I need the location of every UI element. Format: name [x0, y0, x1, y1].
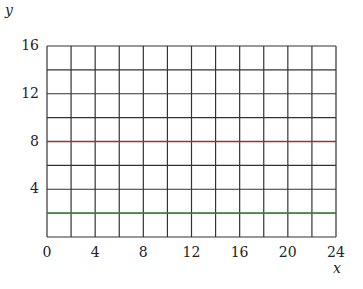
x-tick-label: 16	[231, 244, 249, 260]
x-tick-label: 20	[279, 244, 297, 260]
y-tick-label: 8	[30, 133, 39, 149]
x-tick-label: 8	[139, 244, 148, 260]
y-tick-label: 16	[21, 37, 39, 53]
y-tick-label: 4	[30, 180, 39, 196]
x-tick-label: 4	[91, 244, 100, 260]
x-axis-label: x	[333, 260, 341, 276]
x-tick-label: 12	[183, 244, 201, 260]
y-axis-label: y	[5, 2, 13, 18]
plot-area	[0, 0, 363, 289]
x-tick-label: 24	[327, 244, 345, 260]
x-tick-label: 0	[43, 244, 52, 260]
chart: y x 48121604812162024	[0, 0, 363, 289]
y-tick-label: 12	[21, 85, 39, 101]
